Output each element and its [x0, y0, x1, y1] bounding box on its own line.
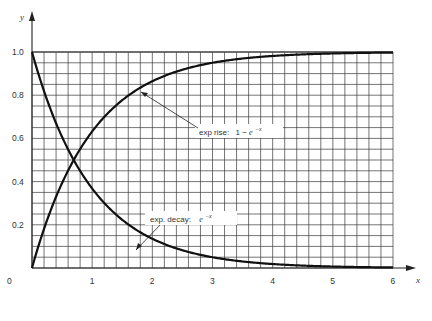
x-tick-label: 2 [150, 276, 155, 286]
x-axis-arrow-icon [406, 265, 416, 271]
y-tick-label: 1.0 [12, 47, 24, 57]
x-tick-label: 1 [90, 276, 95, 286]
svg-text:exp. decay: e −x: exp. decay: e −x [150, 213, 212, 224]
x-tick-label: 3 [210, 276, 215, 286]
y-tick-label: 0.8 [12, 90, 24, 100]
annotation-decay: exp. decay: e −x [136, 211, 237, 250]
x-axis-label: x [415, 275, 420, 285]
x-tick-label: 4 [270, 276, 275, 286]
arrow-rise [141, 92, 198, 128]
y-axis-arrow-icon [29, 11, 35, 21]
y-tick-label: 0.2 [12, 220, 24, 230]
y-tick-label: 0.6 [12, 133, 24, 143]
svg-text:exp rise: 1 − e: exp rise: 1 − e −x [199, 126, 262, 137]
y-axis-label: y [19, 12, 24, 22]
annotation-rise: exp rise: 1 − e −x [141, 92, 283, 138]
annotation-rise-label: exp rise: [199, 128, 229, 137]
x-tick-label: 5 [330, 276, 335, 286]
grid-lines [32, 52, 393, 268]
annotation-decay-label: exp. decay: [150, 215, 191, 224]
tick-labels: 01234560.20.40.60.81.0 [7, 47, 396, 286]
arrowhead-rise-icon [141, 92, 148, 97]
x-tick-label: 6 [391, 276, 396, 286]
y-tick-label: 0.4 [12, 177, 24, 187]
exponential-chart: yx 01234560.20.40.60.81.0 exp rise: 1 − … [0, 0, 432, 321]
x-tick-label: 0 [7, 276, 12, 286]
